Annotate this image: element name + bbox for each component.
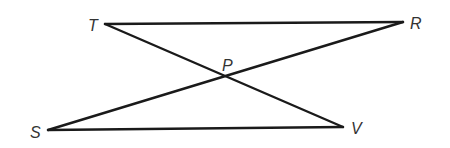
segment-SV [48, 127, 343, 130]
segment-TR [105, 22, 403, 24]
label-V: V [351, 120, 363, 137]
label-P: P [222, 57, 233, 74]
segment-SR [48, 22, 403, 130]
geometry-diagram: T R P S V [0, 0, 450, 148]
segments [48, 22, 403, 130]
label-S: S [30, 124, 41, 141]
label-T: T [88, 17, 99, 34]
label-R: R [410, 15, 422, 32]
